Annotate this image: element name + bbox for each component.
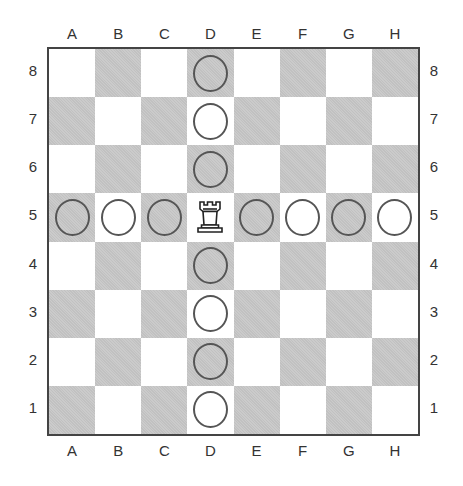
circle-marker-icon bbox=[193, 247, 228, 284]
square-g7 bbox=[326, 97, 372, 145]
square-g5 bbox=[326, 193, 372, 241]
square-e7 bbox=[234, 97, 280, 145]
circle-marker-icon bbox=[193, 103, 228, 140]
file-label-bottom-a: A bbox=[62, 443, 82, 458]
file-label-bottom-b: B bbox=[108, 443, 128, 458]
square-d4 bbox=[187, 242, 233, 290]
circle-marker-icon bbox=[331, 199, 366, 236]
square-d8 bbox=[187, 49, 233, 97]
square-d7 bbox=[187, 97, 233, 145]
file-label-bottom-g: G bbox=[339, 443, 359, 458]
square-g2 bbox=[326, 338, 372, 386]
square-a7 bbox=[49, 97, 95, 145]
square-d6 bbox=[187, 145, 233, 193]
rank-label-left-1: 1 bbox=[25, 400, 41, 415]
square-e4 bbox=[234, 242, 280, 290]
square-h4 bbox=[372, 242, 418, 290]
square-e6 bbox=[234, 145, 280, 193]
square-e2 bbox=[234, 338, 280, 386]
file-label-bottom-h: H bbox=[385, 443, 405, 458]
square-c6 bbox=[141, 145, 187, 193]
square-h2 bbox=[372, 338, 418, 386]
file-label-bottom-f: F bbox=[293, 443, 313, 458]
square-c3 bbox=[141, 290, 187, 338]
rank-label-right-6: 6 bbox=[426, 159, 442, 174]
rank-label-left-3: 3 bbox=[25, 304, 41, 319]
square-c8 bbox=[141, 49, 187, 97]
square-a4 bbox=[49, 242, 95, 290]
square-e8 bbox=[234, 49, 280, 97]
square-e1 bbox=[234, 386, 280, 434]
square-f3 bbox=[280, 290, 326, 338]
rank-label-right-3: 3 bbox=[426, 304, 442, 319]
file-label-top-d: D bbox=[200, 26, 220, 41]
file-label-top-h: H bbox=[385, 26, 405, 41]
square-c1 bbox=[141, 386, 187, 434]
circle-marker-icon bbox=[377, 199, 412, 236]
file-label-bottom-e: E bbox=[247, 443, 267, 458]
file-label-top-f: F bbox=[293, 26, 313, 41]
square-b7 bbox=[95, 97, 141, 145]
file-label-top-c: C bbox=[154, 26, 174, 41]
rank-label-right-1: 1 bbox=[426, 400, 442, 415]
square-b5 bbox=[95, 193, 141, 241]
square-a5 bbox=[49, 193, 95, 241]
square-b8 bbox=[95, 49, 141, 97]
square-g8 bbox=[326, 49, 372, 97]
circle-marker-icon bbox=[101, 199, 136, 236]
square-a2 bbox=[49, 338, 95, 386]
square-f4 bbox=[280, 242, 326, 290]
square-h7 bbox=[372, 97, 418, 145]
rank-label-left-6: 6 bbox=[25, 159, 41, 174]
square-f7 bbox=[280, 97, 326, 145]
rank-label-right-4: 4 bbox=[426, 256, 442, 271]
circle-marker-icon bbox=[193, 55, 228, 92]
circle-marker-icon bbox=[239, 199, 274, 236]
square-c2 bbox=[141, 338, 187, 386]
square-f5 bbox=[280, 193, 326, 241]
chess-board bbox=[47, 47, 420, 436]
square-c5 bbox=[141, 193, 187, 241]
square-e5 bbox=[234, 193, 280, 241]
circle-marker-icon bbox=[193, 391, 228, 428]
square-h3 bbox=[372, 290, 418, 338]
file-label-top-b: B bbox=[108, 26, 128, 41]
square-b3 bbox=[95, 290, 141, 338]
rank-label-right-5: 5 bbox=[426, 207, 442, 222]
square-g4 bbox=[326, 242, 372, 290]
square-c7 bbox=[141, 97, 187, 145]
file-label-bottom-d: D bbox=[200, 443, 220, 458]
square-a6 bbox=[49, 145, 95, 193]
square-b4 bbox=[95, 242, 141, 290]
square-f2 bbox=[280, 338, 326, 386]
square-a8 bbox=[49, 49, 95, 97]
square-d1 bbox=[187, 386, 233, 434]
file-label-top-e: E bbox=[247, 26, 267, 41]
square-d3 bbox=[187, 290, 233, 338]
rook-icon bbox=[187, 193, 233, 241]
rank-label-right-8: 8 bbox=[426, 63, 442, 78]
rank-label-right-7: 7 bbox=[426, 111, 442, 126]
rank-label-left-7: 7 bbox=[25, 111, 41, 126]
circle-marker-icon bbox=[55, 199, 90, 236]
rank-label-left-2: 2 bbox=[25, 352, 41, 367]
rank-label-left-4: 4 bbox=[25, 256, 41, 271]
file-label-bottom-c: C bbox=[154, 443, 174, 458]
square-h1 bbox=[372, 386, 418, 434]
file-label-top-a: A bbox=[62, 26, 82, 41]
square-b2 bbox=[95, 338, 141, 386]
square-g1 bbox=[326, 386, 372, 434]
square-g6 bbox=[326, 145, 372, 193]
square-a3 bbox=[49, 290, 95, 338]
circle-marker-icon bbox=[285, 199, 320, 236]
rank-label-left-5: 5 bbox=[25, 207, 41, 222]
square-f6 bbox=[280, 145, 326, 193]
square-f1 bbox=[280, 386, 326, 434]
square-h6 bbox=[372, 145, 418, 193]
circle-marker-icon bbox=[193, 295, 228, 332]
square-g3 bbox=[326, 290, 372, 338]
circle-marker-icon bbox=[147, 199, 182, 236]
square-d2 bbox=[187, 338, 233, 386]
circle-marker-icon bbox=[193, 343, 228, 380]
square-c4 bbox=[141, 242, 187, 290]
